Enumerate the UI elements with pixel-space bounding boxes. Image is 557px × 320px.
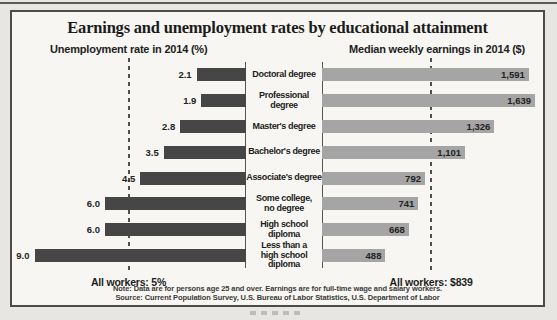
scan-artifact-smudge: [250, 311, 302, 315]
chart-row: 2.8Master's degree1,326: [12, 114, 543, 140]
unemployment-bar: [140, 172, 246, 185]
unemployment-bar: [105, 197, 246, 210]
earnings-bar: 792: [322, 172, 425, 185]
unemployment-value-label: 6.0: [12, 197, 100, 210]
left-reference-label: All workers: 5%: [91, 276, 166, 288]
earnings-bar: 488: [322, 249, 385, 262]
chart-frame: Earnings and unemployment rates by educa…: [10, 10, 545, 307]
unemployment-bar: [201, 94, 246, 107]
unemployment-value-label: 2.1: [12, 68, 192, 81]
chart-row: 6.0Some college, no degree741: [12, 191, 543, 217]
chart-title: Earnings and unemployment rates by educa…: [12, 18, 543, 38]
category-label: Master's degree: [246, 114, 322, 140]
category-label: Less than a high school diploma: [246, 243, 322, 269]
unemployment-bar: [197, 68, 246, 81]
earnings-bar: 668: [322, 223, 409, 236]
chart-row: 9.0Less than a high school diploma488: [12, 243, 543, 269]
scan-artifact-top-line: [0, 2, 557, 4]
unemployment-value-label: 9.0: [12, 249, 30, 262]
category-label: Some college, no degree: [246, 191, 322, 217]
unemployment-bar: [35, 249, 247, 262]
chart-rows: 2.1Doctoral degree1,5911.9Professional d…: [12, 62, 543, 268]
right-axis-header: Median weekly earnings in 2014 ($): [349, 43, 525, 55]
earnings-bar: 1,591: [322, 68, 529, 81]
chart-row: 1.9Professional degree1,639: [12, 88, 543, 114]
category-label: Associate's degree: [246, 165, 322, 191]
earnings-bar: 741: [322, 197, 418, 210]
earnings-bar: 1,326: [322, 120, 494, 133]
category-label: High school diploma: [246, 217, 322, 243]
unemployment-value-label: 3.5: [12, 146, 159, 159]
right-reference-label: All workers: $839: [390, 276, 473, 288]
chart-row: 2.1Doctoral degree1,591: [12, 62, 543, 88]
category-label: Professional degree: [246, 88, 322, 114]
unemployment-value-label: 6.0: [12, 223, 100, 236]
unemployment-bar: [105, 223, 246, 236]
unemployment-bar: [180, 120, 246, 133]
unemployment-value-label: 1.9: [12, 94, 196, 107]
category-label: Doctoral degree: [246, 62, 322, 88]
category-label: Bachelor's degree: [246, 139, 322, 165]
footnote-source: Source: Current Population Survey, U.S. …: [12, 293, 543, 302]
unemployment-bar: [164, 146, 246, 159]
unemployment-value-label: 4.5: [12, 172, 135, 185]
earnings-bar: 1,101: [322, 146, 465, 159]
left-axis-header: Unemployment rate in 2014 (%): [50, 43, 207, 55]
unemployment-value-label: 2.8: [12, 120, 175, 133]
chart-row: 4.5Associate's degree792: [12, 165, 543, 191]
chart-row: 6.0High school diploma668: [12, 217, 543, 243]
earnings-bar: 1,639: [322, 94, 535, 107]
chart-row: 3.5Bachelor's degree1,101: [12, 139, 543, 165]
